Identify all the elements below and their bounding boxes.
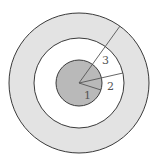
radius-label-1: 1 [84, 89, 91, 102]
concentric-circles-diagram: 1 2 3 [0, 0, 151, 168]
radius-label-3: 3 [102, 54, 109, 67]
radius-label-2: 2 [107, 80, 114, 93]
